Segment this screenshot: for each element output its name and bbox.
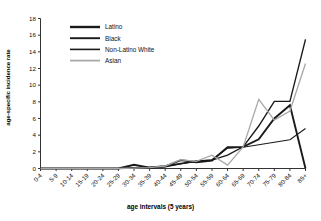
x-tick-label: 65-69 — [230, 171, 247, 188]
x-tick-label: 50-54 — [183, 171, 200, 188]
x-tick-label: 45-49 — [167, 171, 184, 188]
y-tick-label: 14 — [29, 48, 36, 55]
x-tick-label: 70-74 — [245, 171, 262, 188]
chart-legend: LatinoBlackNon-Latino WhiteAsian — [70, 23, 155, 64]
legend-label-non-latino-white: Non-Latino White — [105, 46, 155, 53]
x-tick-label: 80-84 — [276, 171, 293, 188]
legend-label-black: Black — [105, 35, 121, 42]
y-tick-label: 10 — [29, 81, 36, 88]
y-tick-label: 16 — [29, 31, 36, 38]
x-tick-label: 75-79 — [261, 171, 278, 188]
x-tick-label: 35-39 — [136, 171, 153, 188]
x-tick-label: 15-19 — [74, 171, 91, 188]
x-tick-label: 55-59 — [199, 171, 216, 188]
x-tick-label: 85+ — [296, 171, 309, 184]
series-line-black — [41, 39, 306, 168]
chart-container: age-specific incidence rate 024681012141… — [0, 0, 321, 221]
x-tick-label: 60-64 — [214, 171, 231, 188]
x-tick-label: 30-34 — [121, 171, 138, 188]
y-tick-label: 0 — [33, 165, 37, 172]
y-tick-label: 6 — [33, 115, 37, 122]
y-tick-label: 18 — [29, 15, 36, 22]
y-tick-label: 8 — [33, 98, 37, 105]
x-tick-label: 20-24 — [89, 171, 106, 188]
legend-label-latino: Latino — [105, 23, 123, 30]
chart-plot-area: 0246810121416180-45-910-1415-1920-2425-2… — [0, 0, 321, 221]
y-tick-label: 2 — [33, 148, 37, 155]
y-tick-label: 12 — [29, 65, 36, 72]
x-tick-label: 5-9 — [48, 171, 60, 183]
x-tick-label: 25-29 — [105, 171, 122, 188]
x-tick-label: 0-4 — [32, 171, 44, 183]
x-tick-label: 10-14 — [58, 171, 75, 188]
y-tick-label: 4 — [33, 131, 37, 138]
legend-label-asian: Asian — [105, 57, 121, 64]
x-axis-title: age intervals (5 years) — [0, 203, 321, 210]
x-tick-label: 40-44 — [152, 171, 169, 188]
